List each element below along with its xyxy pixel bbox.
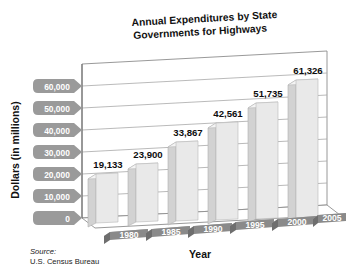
ytick-0: 0 — [33, 211, 82, 225]
ytick-60000: 60,000 — [33, 79, 82, 93]
bar-1985 — [128, 163, 158, 226]
ytick-label: 30,000 — [44, 148, 70, 158]
category-label: 1995 — [245, 220, 264, 230]
ytick-10000: 10,000 — [33, 189, 82, 203]
ytick-30000: 30,000 — [33, 145, 82, 159]
bar-chart-3d: 60,000 50,000 40,000 30,000 20,000 10,00… — [0, 0, 349, 280]
x-axis-title: Year — [189, 248, 211, 260]
bar-2005 — [288, 79, 318, 222]
category-label: 2000 — [287, 217, 306, 227]
source-note: Source: U.S. Census Bureau — [30, 247, 99, 266]
category-block-1980: 1980 — [104, 229, 148, 244]
value-label-2000: 51,735 — [253, 88, 283, 99]
y-axis-title: Dollars (in millions) — [9, 101, 21, 198]
value-label-1980: 19,133 — [93, 159, 122, 170]
value-label-1995: 42,561 — [213, 108, 243, 119]
ytick-40000: 40,000 — [33, 123, 82, 137]
bar-1980 — [88, 173, 118, 227]
bar-2000 — [248, 102, 278, 223]
category-block-1990: 1990 — [188, 223, 232, 238]
chart-title: Annual Expenditures by State Governments… — [131, 9, 278, 41]
ytick-20000: 20,000 — [33, 167, 82, 181]
value-label-1990: 33,867 — [173, 127, 202, 138]
value-label-2005: 61,326 — [293, 65, 322, 76]
category-label: 2005 — [322, 213, 341, 223]
ytick-label: 10,000 — [44, 192, 70, 202]
category-block-1985: 1985 — [146, 226, 190, 241]
category-label: 1990 — [203, 224, 222, 234]
ytick-label: 20,000 — [44, 170, 70, 180]
source-label: Source: — [30, 247, 56, 256]
ytick-label: 40,000 — [44, 126, 70, 136]
source-value: U.S. Census Bureau — [30, 257, 99, 266]
ytick-label: 0 — [65, 214, 70, 224]
ytick-label: 50,000 — [44, 104, 70, 114]
ytick-50000: 50,000 — [33, 101, 82, 115]
chart-container: 60,000 50,000 40,000 30,000 20,000 10,00… — [0, 0, 349, 280]
category-block-1995: 1995 — [230, 219, 274, 234]
ytick-label: 60,000 — [44, 82, 70, 92]
category-label: 1985 — [161, 227, 180, 237]
category-label: 1980 — [119, 230, 138, 240]
bar-1995 — [208, 122, 238, 224]
bar-1990 — [168, 141, 198, 225]
value-label-1985: 23,900 — [133, 149, 162, 160]
